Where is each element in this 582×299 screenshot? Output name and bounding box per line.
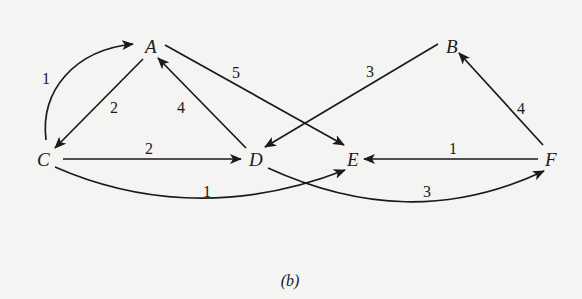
weight-C-D: 2 <box>145 140 153 157</box>
node-E: E <box>346 149 359 170</box>
edge-D-F <box>268 168 544 202</box>
weight-F-B: 4 <box>517 100 525 117</box>
node-D: D <box>248 149 263 170</box>
weight-F-E: 1 <box>449 140 457 157</box>
weight-D-A: 4 <box>177 99 185 116</box>
weight-B-D: 3 <box>366 63 374 80</box>
figure-caption: (b) <box>281 272 300 290</box>
node-A: A <box>143 36 157 57</box>
weight-C-A: 1 <box>42 70 50 87</box>
edge-A-E <box>165 45 344 145</box>
edge-B-D <box>265 44 438 147</box>
weight-D-F: 3 <box>423 183 431 200</box>
edge-C-A <box>45 44 133 140</box>
weighted-digraph: 1 2 4 5 3 2 1 3 1 4 A B C D E F (b) <box>0 0 582 299</box>
edge-C-E <box>55 167 345 198</box>
edge-F-B <box>459 53 543 145</box>
weight-A-C: 2 <box>110 99 118 116</box>
node-C: C <box>37 149 50 170</box>
node-B: B <box>446 36 458 57</box>
weight-C-E: 1 <box>203 183 211 200</box>
node-F: F <box>544 149 557 170</box>
weight-A-E: 5 <box>232 64 240 81</box>
